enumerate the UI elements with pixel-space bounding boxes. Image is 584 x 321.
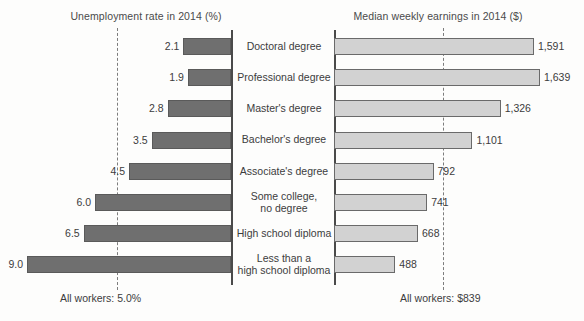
table-row: 1,326 bbox=[292, 100, 584, 117]
table-row: 741 bbox=[292, 194, 584, 211]
left-panel-title: Unemployment rate in 2014 (%) bbox=[0, 10, 292, 22]
category-label: Associate's degree bbox=[234, 166, 334, 178]
table-row: 488 bbox=[292, 256, 584, 273]
unemployment-bar bbox=[152, 132, 231, 149]
category-label: Doctoral degree bbox=[234, 41, 334, 53]
earnings-value-label: 1,101 bbox=[476, 133, 502, 148]
right-panel-title: Median weekly earnings in 2014 ($) bbox=[292, 10, 584, 22]
unemployment-bar bbox=[129, 163, 231, 180]
earnings-bar bbox=[334, 132, 472, 149]
earnings-bar bbox=[334, 194, 427, 211]
category-label-line: Some college, bbox=[234, 191, 334, 203]
category-label: High school diploma bbox=[234, 228, 334, 240]
left-footnote: All workers: 5.0% bbox=[60, 292, 141, 304]
category-label-column: Doctoral degreeProfessional degreeMaster… bbox=[234, 30, 334, 285]
table-row: 1,101 bbox=[292, 132, 584, 149]
earnings-plot-area: 1,5911,6391,3261,101792741668488 bbox=[292, 30, 584, 285]
education-earnings-unemployment-chart: Unemployment rate in 2014 (%) Median wee… bbox=[0, 0, 584, 321]
category-label-line: no degree bbox=[234, 203, 334, 215]
earnings-bar bbox=[334, 225, 418, 242]
earnings-bar bbox=[334, 163, 434, 180]
unemployment-value-label: 1.9 bbox=[169, 70, 184, 85]
earnings-value-label: 792 bbox=[438, 164, 456, 179]
earnings-value-label: 1,326 bbox=[505, 101, 531, 116]
all-workers-reference-line-right bbox=[443, 28, 444, 290]
earnings-value-label: 1,639 bbox=[544, 70, 570, 85]
table-row: 792 bbox=[292, 163, 584, 180]
category-label-line: high school diploma bbox=[234, 265, 334, 277]
unemployment-bar bbox=[168, 100, 231, 117]
earnings-value-label: 741 bbox=[431, 195, 449, 210]
unemployment-value-label: 2.1 bbox=[165, 39, 180, 54]
unemployment-value-label: 9.0 bbox=[8, 257, 23, 272]
unemployment-bar bbox=[95, 194, 231, 211]
earnings-bar bbox=[334, 100, 501, 117]
earnings-value-label: 488 bbox=[399, 257, 417, 272]
unemployment-value-label: 6.0 bbox=[76, 195, 91, 210]
unemployment-bar bbox=[188, 69, 231, 86]
category-label-line: Master's degree bbox=[234, 103, 334, 115]
unemployment-value-label: 3.5 bbox=[133, 133, 148, 148]
table-row: 1,639 bbox=[292, 69, 584, 86]
category-label: Less than ahigh school diploma bbox=[234, 253, 334, 276]
table-row: 1,591 bbox=[292, 38, 584, 55]
category-label: Some college,no degree bbox=[234, 191, 334, 214]
earnings-bar bbox=[334, 38, 534, 55]
unemployment-bar bbox=[183, 38, 231, 55]
right-footnote: All workers: $839 bbox=[400, 292, 481, 304]
category-label-line: Bachelor's degree bbox=[234, 134, 334, 146]
unemployment-value-label: 6.5 bbox=[65, 226, 80, 241]
table-row: 668 bbox=[292, 225, 584, 242]
category-label-line: Doctoral degree bbox=[234, 41, 334, 53]
all-workers-reference-line-left bbox=[117, 28, 118, 290]
category-label-line: Associate's degree bbox=[234, 166, 334, 178]
category-label: Bachelor's degree bbox=[234, 134, 334, 146]
category-label-line: High school diploma bbox=[234, 228, 334, 240]
category-label-line: Professional degree bbox=[234, 72, 334, 84]
unemployment-bar bbox=[84, 225, 231, 242]
earnings-value-label: 1,591 bbox=[538, 39, 564, 54]
earnings-bar bbox=[334, 69, 540, 86]
category-label: Master's degree bbox=[234, 103, 334, 115]
earnings-value-label: 668 bbox=[422, 226, 440, 241]
unemployment-bar bbox=[27, 256, 231, 273]
earnings-bar bbox=[334, 256, 395, 273]
category-label: Professional degree bbox=[234, 72, 334, 84]
unemployment-value-label: 2.8 bbox=[149, 101, 164, 116]
unemployment-value-label: 4.5 bbox=[110, 164, 125, 179]
